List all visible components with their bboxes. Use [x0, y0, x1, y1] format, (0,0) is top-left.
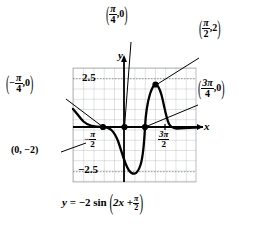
denominator: 2 [89, 140, 96, 149]
y-axis-label: y [118, 49, 123, 61]
equation-lhs: y [62, 196, 67, 208]
equation-equals: = [70, 196, 76, 208]
denominator: 4 [109, 15, 116, 25]
y-tick-label-neg-2point5: −2.5 [78, 163, 98, 175]
right-paren: ) [124, 2, 127, 25]
equation-caption: y = −2 sin (2x +π2) [62, 195, 143, 212]
denominator: 2 [202, 29, 209, 39]
left-paren: ( [6, 71, 9, 94]
equation-argument: 2x + [113, 196, 133, 208]
callout-zero-neg-two: (0, −2) [11, 144, 38, 155]
figure-root: y x 2.5 −2.5 −π2 3π2 (π4,0) (π2,2) (−π4,… [0, 0, 256, 227]
callout-3pi-over-4-zero: (3π4,0) [198, 78, 225, 99]
callout-pi-over-4-zero: (π4,0) [106, 4, 128, 25]
right-paren: ) [221, 76, 224, 99]
x-axis-label: x [204, 120, 210, 132]
x-tick-label-3pi-over-2: 3π2 [158, 130, 169, 149]
left-paren: ( [198, 76, 201, 99]
x-tick-label-neg-pi-over-2: −π2 [84, 130, 96, 149]
denominator: 4 [15, 84, 22, 94]
denominator: 4 [201, 89, 213, 99]
equation-coefficient: −2 sin [79, 196, 107, 208]
right-paren: ) [139, 190, 143, 215]
left-paren: ( [106, 2, 109, 25]
callout-neg-pi-over-4-zero: (−π4,0) [6, 73, 33, 94]
denominator: 2 [158, 140, 169, 149]
right-paren: ) [30, 71, 33, 94]
left-paren: ( [109, 190, 113, 215]
y-tick-label-2point5: 2.5 [82, 71, 96, 83]
left-paren: ( [199, 16, 202, 39]
x-axis-arrowhead [197, 124, 203, 130]
callout-pi-over-2-two: (π2,2) [199, 18, 221, 39]
right-paren: ) [217, 16, 220, 39]
